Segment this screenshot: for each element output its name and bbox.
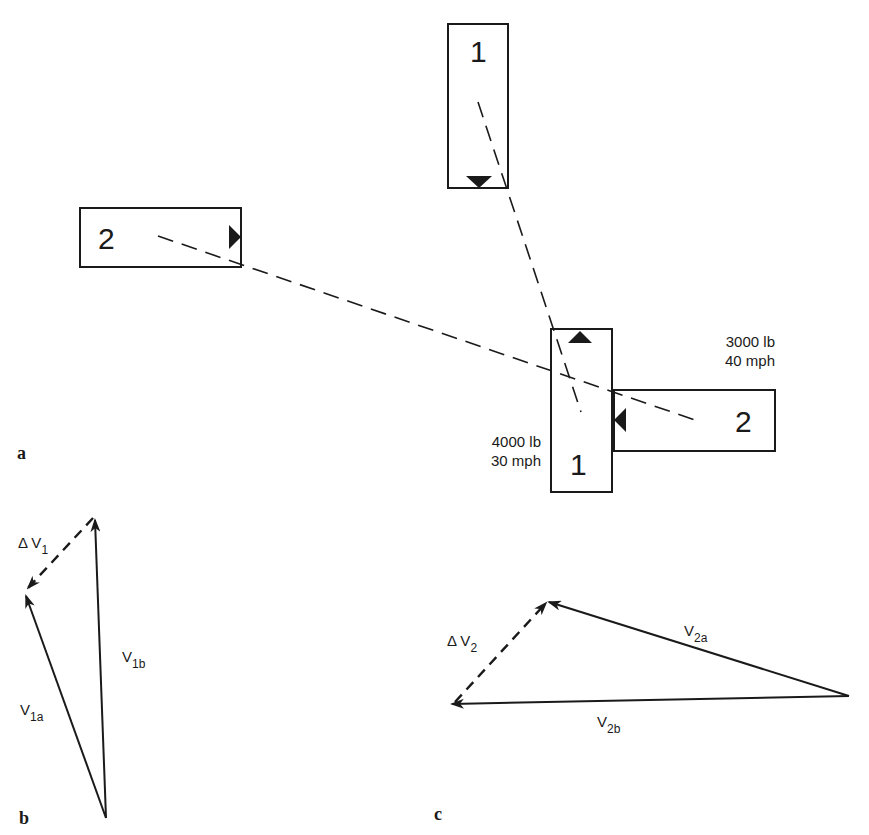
v2a-sub: 2a <box>694 631 708 645</box>
panel-a-label: a <box>17 443 26 463</box>
vehicle-2-speed: 40 mph <box>725 352 775 369</box>
vehicle-1-number: 1 <box>470 35 487 68</box>
v2b-sub: 2b <box>607 722 621 736</box>
v2a-label: V2a <box>684 622 708 645</box>
v1a-label: V1a <box>20 701 44 724</box>
panel-c: Δ V2 V2a V2b c <box>434 602 849 824</box>
panel-c-label: c <box>434 804 442 824</box>
vehicle-1-trajectory <box>478 102 581 412</box>
panel-b: Δ V1 V1b V1a b <box>18 518 146 828</box>
vehicle-2-impact-number: 2 <box>735 405 752 438</box>
v1a-sub: 1a <box>30 710 44 724</box>
delta-v2-base: Δ V <box>447 632 470 649</box>
vehicle-1-weight: 4000 lb <box>492 433 541 450</box>
v1a-base: V <box>20 701 30 718</box>
delta-v1-label: Δ V1 <box>18 534 48 557</box>
delta-v1-base: Δ V <box>18 534 41 551</box>
vehicle-1-speed: 30 mph <box>491 452 541 469</box>
vehicle-2-number: 2 <box>98 222 115 255</box>
v2a-vector <box>549 602 849 696</box>
v2b-base: V <box>597 713 607 730</box>
collision-diagram: 1 2 1 2 3000 lb 40 mph 4000 lb 30 mph <box>0 0 869 835</box>
vehicle-2-direction-marker-icon <box>614 408 626 432</box>
delta-v2-vector <box>455 603 546 702</box>
vehicle-2-weight: 3000 lb <box>726 333 775 350</box>
panel-b-label: b <box>19 808 29 828</box>
vehicle-1-direction-marker-icon <box>568 331 592 343</box>
delta-v2-label: Δ V2 <box>447 632 477 655</box>
v1a-vector <box>26 596 106 818</box>
v2b-vector <box>452 696 849 704</box>
vehicle-1-impact-marker-icon <box>466 176 492 188</box>
v1b-vector <box>95 520 106 818</box>
panel-a: 1 2 1 2 3000 lb 40 mph 4000 lb 30 mph <box>17 24 775 492</box>
vehicle-1-impact-number: 1 <box>570 448 587 481</box>
v2a-base: V <box>684 622 694 639</box>
delta-v1-vector <box>28 518 93 588</box>
vehicle-1-impact-position: 1 <box>551 329 612 492</box>
delta-v2-sub: 2 <box>470 641 477 655</box>
v1b-base: V <box>122 648 132 665</box>
v1b-label: V1b <box>122 648 146 671</box>
v2b-label: V2b <box>597 713 621 736</box>
v1b-sub: 1b <box>132 657 146 671</box>
vehicle-2-impact-marker-icon <box>229 225 241 249</box>
delta-v1-sub: 1 <box>41 543 48 557</box>
